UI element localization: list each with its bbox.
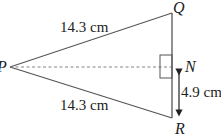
triangle-diagram: P Q N R 14.3 cm 14.3 cm 4.9 cm (0, 0, 221, 140)
length-label-pr: 14.3 cm (60, 97, 109, 113)
length-label-pq: 14.3 cm (60, 19, 109, 35)
point-label-r: R (174, 120, 185, 137)
point-label-p: P (0, 58, 7, 75)
length-label-nr: 4.9 cm (181, 84, 221, 100)
point-label-n: N (184, 58, 197, 75)
right-angle-marker (160, 55, 172, 78)
point-label-q: Q (173, 0, 185, 16)
